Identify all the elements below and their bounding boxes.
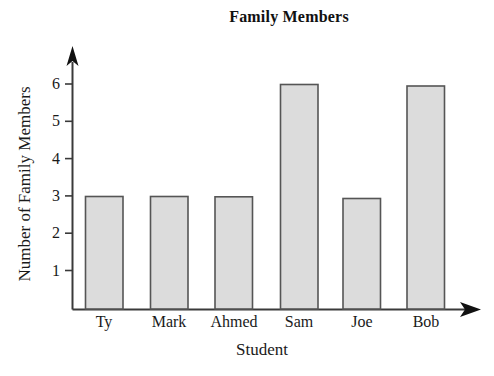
x-label-sam: Sam [269,313,329,331]
y-tick-label-5: 5 [38,112,60,130]
x-label-ahmed: Ahmed [194,313,274,331]
x-label-joe: Joe [332,313,392,331]
y-tick-label-1: 1 [38,262,60,280]
x-label-bob: Bob [396,313,456,331]
y-tick-label-2: 2 [38,224,60,242]
y-tick-label-4: 4 [38,150,60,168]
bar-ahmed [215,197,253,309]
y-tick-label-6: 6 [38,75,60,93]
bar-ty [86,197,124,310]
bar-sam [281,85,319,310]
x-label-ty: Ty [74,313,134,331]
y-tick-label-3: 3 [38,187,60,205]
bar-joe [343,199,381,310]
bar-mark [151,197,189,310]
bar-bob [407,86,445,309]
bar-chart: Family Members Number of Family Members … [0,0,494,376]
x-axis-title: Student [182,340,342,360]
